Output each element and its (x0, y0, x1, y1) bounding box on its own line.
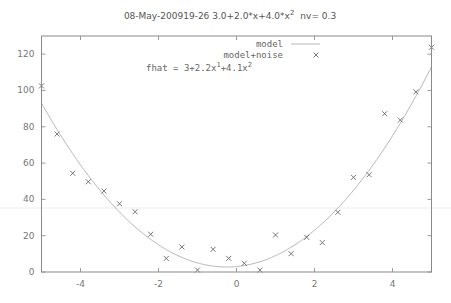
chart-title: 08-May-200919-26 3.0+2.0*x+4.0*x2nv= 0.3 (124, 9, 336, 21)
legend-label-model-noise: model+noise (223, 50, 283, 60)
data-point (148, 232, 153, 237)
data-point (86, 179, 91, 184)
data-point (164, 256, 169, 261)
fit-annotation: fhat = 3+2.2x1+4.1x2 (146, 61, 252, 73)
data-point (70, 171, 75, 176)
data-point (335, 210, 340, 215)
y-tick-label: 40 (23, 194, 35, 204)
data-point (351, 175, 356, 180)
y-tick-label: 0 (29, 267, 35, 277)
data-point (211, 247, 216, 252)
legend: model model+noise fhat = 3+2.2x1+4.1x2 (146, 39, 320, 73)
axis-tick-labels: -4-2024020406080100120 (17, 49, 395, 289)
legend-marker-model-noise (314, 53, 319, 58)
noise-markers (39, 45, 434, 273)
data-point (101, 189, 106, 194)
data-point (367, 172, 372, 177)
data-point (382, 111, 387, 116)
x-tick-label: 0 (234, 279, 240, 289)
data-point (117, 201, 122, 206)
data-point (226, 256, 231, 261)
y-tick-label: 100 (17, 85, 34, 95)
x-tick-label: -2 (154, 279, 163, 289)
data-point (320, 240, 325, 245)
data-point (273, 232, 278, 237)
y-tick-label: 80 (23, 122, 35, 132)
y-tick-label: 120 (17, 49, 34, 59)
data-point (179, 244, 184, 249)
legend-label-model: model (256, 39, 283, 49)
data-point (289, 251, 294, 256)
data-point (413, 89, 418, 94)
data-point (133, 209, 138, 214)
chart: 08-May-200919-26 3.0+2.0*x+4.0*x2nv= 0.3… (0, 0, 451, 303)
y-tick-label: 60 (23, 158, 35, 168)
x-tick-label: 4 (390, 279, 396, 289)
model-curve (42, 67, 432, 267)
x-tick-label: -4 (76, 279, 85, 289)
y-tick-label: 20 (23, 231, 35, 241)
x-tick-label: 2 (312, 279, 318, 289)
data-point (55, 132, 60, 137)
